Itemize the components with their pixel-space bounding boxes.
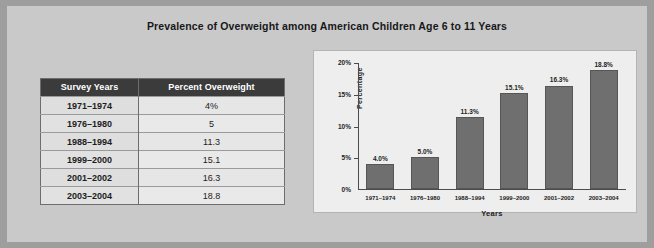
table-body: 1971–19744%1976–198051988–199411.31999–2… (41, 97, 285, 205)
bar (590, 70, 618, 189)
table-row: 1999–200015.1 (41, 151, 285, 169)
cell-percent-overweight: 11.3 (139, 133, 285, 151)
x-tick-label: 2003–2004 (580, 195, 628, 201)
table-head: Survey Years Percent Overweight (41, 79, 285, 97)
chart-panel: Percentage 0%5%10%15%20% 4.0%5.0%11.3%15… (313, 50, 637, 213)
bar (500, 93, 528, 189)
x-tick-label: 1971–1974 (356, 195, 404, 201)
table-row: 1971–19744% (41, 97, 285, 115)
page-title: Prevalence of Overweight among American … (7, 20, 647, 32)
bar-value-label: 15.1% (494, 85, 534, 92)
x-axis-line (358, 189, 626, 190)
x-tick-label: 1976–1980 (401, 195, 449, 201)
y-axis-line (358, 63, 359, 190)
y-tick-mark (354, 63, 358, 64)
x-tick-label: 2001–2002 (535, 195, 583, 201)
bar-value-label: 4.0% (360, 156, 400, 163)
cell-survey-years: 2003–2004 (41, 187, 139, 205)
table-row: 2001–200216.3 (41, 169, 285, 187)
page-frame: Prevalence of Overweight among American … (0, 0, 654, 248)
cell-survey-years: 1971–1974 (41, 97, 139, 115)
cell-survey-years: 1988–1994 (41, 133, 139, 151)
x-axis-label: Years (358, 209, 626, 218)
plot-area: Percentage 0%5%10%15%20% 4.0%5.0%11.3%15… (358, 63, 626, 190)
cell-percent-overweight: 4% (139, 97, 285, 115)
y-tick-mark (354, 95, 358, 96)
table-row: 2003–200418.8 (41, 187, 285, 205)
bar-value-label: 18.8% (584, 62, 624, 69)
bar-value-label: 5.0% (405, 149, 445, 156)
bar-value-label: 11.3% (450, 109, 490, 116)
bar-value-label: 16.3% (539, 77, 579, 84)
bar (545, 86, 573, 190)
x-tick-label: 1988–1994 (446, 195, 494, 201)
table-row: 1988–199411.3 (41, 133, 285, 151)
y-tick-label: 15% (327, 92, 351, 99)
cell-percent-overweight: 18.8 (139, 187, 285, 205)
y-tick-label: 0% (327, 187, 351, 194)
cell-percent-overweight: 15.1 (139, 151, 285, 169)
cell-percent-overweight: 16.3 (139, 169, 285, 187)
data-table-container: Survey Years Percent Overweight 1971–197… (40, 78, 285, 205)
column-header-percent-overweight: Percent Overweight (139, 79, 285, 97)
page-canvas: Prevalence of Overweight among American … (7, 6, 647, 242)
table-row: 1976–19805 (41, 115, 285, 133)
cell-survey-years: 1999–2000 (41, 151, 139, 169)
cell-percent-overweight: 5 (139, 115, 285, 133)
y-tick-mark (354, 127, 358, 128)
cell-survey-years: 1976–1980 (41, 115, 139, 133)
y-tick-mark (354, 158, 358, 159)
y-tick-label: 5% (327, 155, 351, 162)
cell-survey-years: 2001–2002 (41, 169, 139, 187)
bar (411, 157, 439, 189)
bar (366, 164, 394, 189)
table-header-row: Survey Years Percent Overweight (41, 79, 285, 97)
y-tick-label: 20% (327, 60, 351, 67)
x-tick-label: 1999–2000 (490, 195, 538, 201)
y-tick-label: 10% (327, 124, 351, 131)
bar (456, 117, 484, 189)
column-header-survey-years: Survey Years (41, 79, 139, 97)
prevalence-table: Survey Years Percent Overweight 1971–197… (40, 78, 285, 205)
